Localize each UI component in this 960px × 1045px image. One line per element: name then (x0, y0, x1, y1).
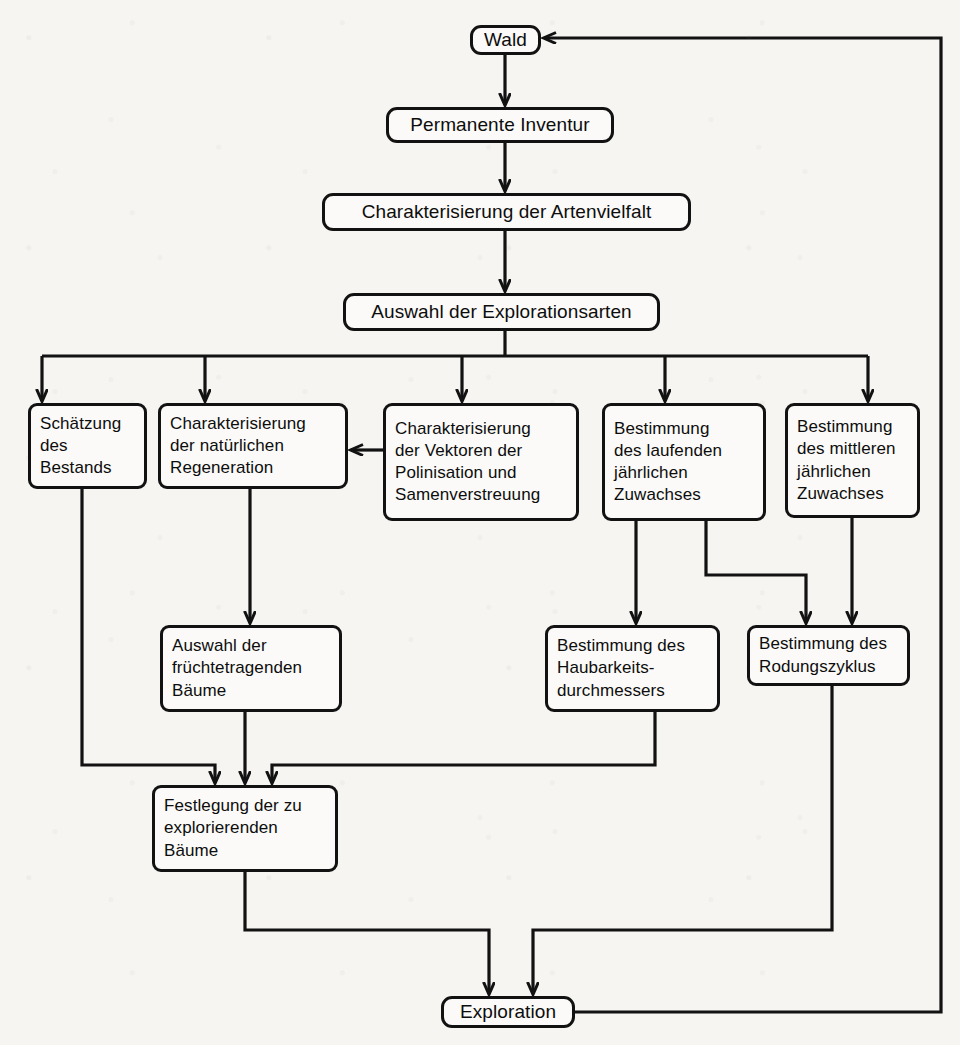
node-bestimmung-mittlerer-zuwachs-label: Bestimmung des mittleren jährlichen Zuwa… (788, 416, 926, 504)
node-wald-label: Wald (473, 28, 538, 53)
flowchart-canvas: Wald Permanente Inventur Charakterisieru… (0, 0, 960, 1045)
node-permanente-inventur-label: Permanente Inventur (389, 113, 611, 138)
node-schaetzung-bestands-label: Schätzung des Bestands (31, 413, 153, 479)
node-auswahl-fruechtetragende-baeume-label: Auswahl der früchtetragenden Bäume (163, 635, 348, 701)
node-auswahl-fruechtetragende-baeume[interactable]: Auswahl der früchtetragenden Bäume (160, 625, 342, 712)
node-charakterisierung-artenvielfalt-label: Charakterisierung der Artenvielfalt (325, 200, 688, 225)
node-bestimmung-rodungszyklus[interactable]: Bestimmung des Rodungszyklus (747, 625, 910, 686)
node-auswahl-explorationsarten-label: Auswahl der Explorationsarten (346, 300, 657, 325)
edge-laufender-rodungszyklus (706, 521, 806, 623)
node-charakterisierung-vektoren-label: Charakterisierung der Vektoren der Polin… (386, 418, 585, 506)
node-bestimmung-rodungszyklus-label: Bestimmung des Rodungszyklus (750, 633, 916, 677)
node-auswahl-explorationsarten[interactable]: Auswahl der Explorationsarten (343, 293, 660, 331)
node-charakterisierung-regeneration-label: Charakterisierung der natürlichen Regene… (161, 413, 354, 479)
node-charakterisierung-vektoren[interactable]: Charakterisierung der Vektoren der Polin… (383, 403, 579, 521)
node-festlegung-explorierende-baeume[interactable]: Festlegung der zu explorierenden Bäume (152, 785, 338, 872)
node-permanente-inventur[interactable]: Permanente Inventur (386, 107, 614, 143)
node-exploration-label: Exploration (444, 1000, 572, 1025)
node-festlegung-explorierende-baeume-label: Festlegung der zu explorierenden Bäume (155, 795, 344, 861)
node-bestimmung-haubarkeitsdurchmesser-label: Bestimmung des Haubarkeits- durchmessers (548, 635, 726, 701)
node-schaetzung-bestands[interactable]: Schätzung des Bestands (28, 403, 147, 489)
edge-rodungszyklus-exploration (533, 686, 832, 994)
edge-exploration-wald-feedback (544, 38, 941, 1012)
node-wald[interactable]: Wald (470, 25, 541, 55)
node-bestimmung-laufender-zuwachs-label: Bestimmung des laufenden jährlichen Zuwa… (605, 418, 772, 506)
node-bestimmung-mittlerer-zuwachs[interactable]: Bestimmung des mittleren jährlichen Zuwa… (785, 403, 920, 518)
node-charakterisierung-artenvielfalt[interactable]: Charakterisierung der Artenvielfalt (322, 193, 691, 231)
edge-haubarkeit-festlegung (272, 712, 655, 783)
flowchart-edges (0, 0, 960, 1045)
node-bestimmung-haubarkeitsdurchmesser[interactable]: Bestimmung des Haubarkeits- durchmessers (545, 625, 720, 712)
node-bestimmung-laufender-zuwachs[interactable]: Bestimmung des laufenden jährlichen Zuwa… (602, 403, 766, 521)
node-charakterisierung-regeneration[interactable]: Charakterisierung der natürlichen Regene… (158, 403, 348, 489)
node-exploration[interactable]: Exploration (441, 996, 575, 1028)
edge-festlegung-exploration (245, 872, 489, 994)
